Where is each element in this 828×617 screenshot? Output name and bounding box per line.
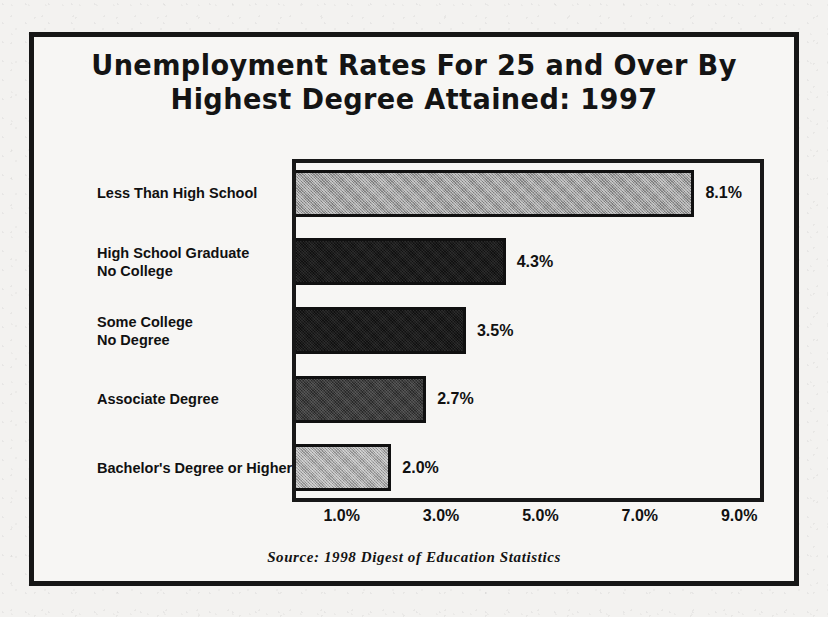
category-label-3: Some CollegeNo Degree [97,313,297,349]
source-note: Source: 1998 Digest of Education Statist… [34,549,794,566]
plot-area: 8.1%4.3%3.5%2.7%2.0% [292,159,764,502]
category-label-1: Less Than High School [97,184,297,202]
category-label-line: Some College [97,313,297,331]
x-axis-tick-labels: 1.0%3.0%5.0%7.0%9.0% [292,507,764,531]
chart-figure-frame: Unemployment Rates For 25 and Over By Hi… [29,32,799,586]
category-label-line: Associate Degree [97,390,297,408]
category-label-4: Associate Degree [97,390,297,408]
category-axis-labels: Less Than High SchoolHigh School Graduat… [97,159,292,502]
category-label-line: No Degree [97,331,297,349]
chart-title-line-1: Unemployment Rates For 25 and Over By [45,49,782,83]
category-label-5: Bachelor's Degree or Higher [97,459,297,477]
x-tick-label-4: 7.0% [622,507,658,525]
x-tick-label-2: 3.0% [423,507,459,525]
plot-frame-border [292,159,764,502]
category-label-line: Bachelor's Degree or Higher [97,459,297,477]
category-label-line: Less Than High School [97,184,297,202]
x-tick-label-1: 1.0% [323,507,359,525]
chart-title-line-2: Highest Degree Attained: 1997 [45,83,782,117]
chart-title: Unemployment Rates For 25 and Over By Hi… [45,49,782,117]
category-label-2: High School GraduateNo College [97,244,297,280]
x-tick-label-3: 5.0% [522,507,558,525]
x-tick-label-5: 9.0% [721,507,757,525]
category-label-line: High School Graduate [97,244,297,262]
category-label-line: No College [97,262,297,280]
